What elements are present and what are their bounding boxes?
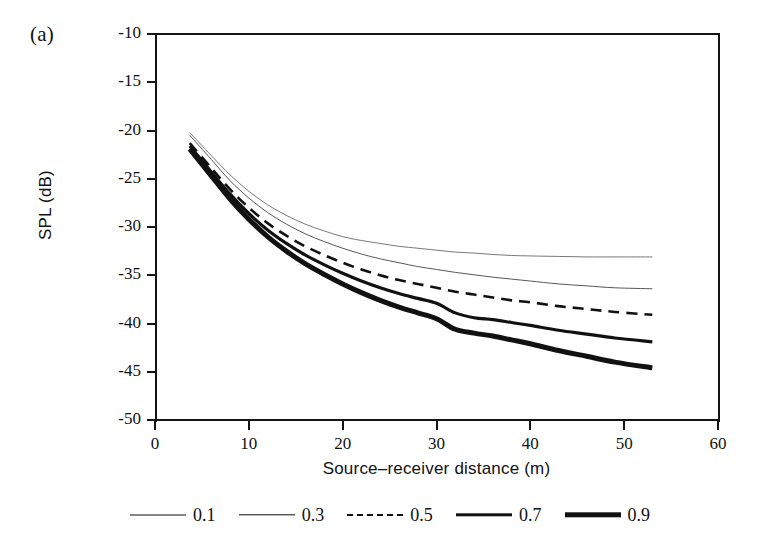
y-tick-label: -30 [85,216,141,236]
x-tick-label: 10 [227,434,271,454]
y-tick-label: -35 [85,264,141,284]
legend-line [347,514,403,516]
legend-entry-0.3[interactable]: 0.3 [239,505,325,526]
y-tick-mark [147,323,156,325]
y-axis-title: SPL (dB) [36,125,56,285]
x-axis-line [155,419,720,421]
y-tick-mark [147,130,156,132]
legend-label: 0.7 [519,505,542,526]
y-tick-mark [147,81,156,83]
x-tick-mark [436,421,438,430]
legend-label: 0.3 [302,505,325,526]
chart-legend: 0.10.30.50.70.9 [130,500,650,530]
y-tick-label: -10 [85,23,141,43]
x-tick-mark [248,421,250,430]
y-tick-mark [147,33,156,35]
legend-line [565,512,621,517]
x-tick-mark [623,421,625,430]
legend-entry-0.7[interactable]: 0.7 [456,505,542,526]
legend-swatch-0.1 [130,508,186,522]
x-axis-title: Source–receiver distance (m) [155,459,718,479]
legend-line [239,514,295,515]
legend-entry-0.5[interactable]: 0.5 [347,505,433,526]
x-tick-label: 60 [696,434,740,454]
x-tick-mark [154,421,156,430]
x-tick-label: 0 [133,434,177,454]
y-tick-label: -20 [85,120,141,140]
series-line-0.5 [190,143,653,315]
series-line-0.3 [190,135,653,288]
legend-entry-0.9[interactable]: 0.9 [565,505,651,526]
figure-panel-a: (a) -10-15-20-25-30-35-40-45-50010203040… [0,0,767,549]
y-tick-mark [147,371,156,373]
y-tick-mark [147,178,156,180]
y-tick-label: -25 [85,168,141,188]
legend-swatch-0.9 [565,508,621,522]
legend-label: 0.1 [193,505,216,526]
legend-swatch-0.5 [347,508,403,522]
x-tick-mark [717,421,719,430]
legend-label: 0.9 [628,505,651,526]
x-tick-label: 20 [321,434,365,454]
legend-entry-0.1[interactable]: 0.1 [130,505,216,526]
x-tick-mark [529,421,531,430]
legend-line [456,513,512,516]
series-line-0.7 [190,146,653,342]
x-tick-label: 50 [602,434,646,454]
y-tick-mark [147,226,156,228]
plot-frame-right [718,33,720,422]
legend-swatch-0.3 [239,508,295,522]
y-tick-label: -50 [85,409,141,429]
plot-frame-top [155,33,720,35]
y-tick-label: -15 [85,71,141,91]
series-line-0.9 [190,149,653,368]
series-line-0.1 [190,132,653,257]
panel-label: (a) [30,22,54,47]
legend-label: 0.5 [410,505,433,526]
y-tick-label: -40 [85,313,141,333]
x-tick-mark [342,421,344,430]
x-tick-label: 30 [415,434,459,454]
y-tick-mark [147,274,156,276]
legend-swatch-0.7 [456,508,512,522]
y-tick-label: -45 [85,361,141,381]
legend-line [130,515,186,516]
x-tick-label: 40 [508,434,552,454]
